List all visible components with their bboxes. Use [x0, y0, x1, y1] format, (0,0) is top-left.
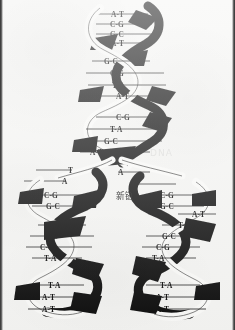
daughter-duplex-left — [14, 172, 104, 315]
base-pair-label: T-A — [44, 254, 57, 263]
base-pair-label: G-C — [110, 30, 124, 39]
base-pair-label: G-C — [160, 202, 174, 211]
base-pair-label: T-A — [52, 221, 65, 230]
base-pair-label: C-G — [110, 69, 124, 78]
base-pair-label: T-A — [112, 81, 125, 90]
base-pair-label: A-T — [156, 305, 169, 314]
base-pair-label: A-T — [111, 10, 124, 19]
scan-watermark: DNA — [150, 148, 173, 158]
base-pair-label: G-C — [104, 137, 118, 146]
daughter-duplex-right — [130, 176, 220, 317]
dna-helix-drawing: A-T C-G G-C A-T G-C C-G T-A A-T C-G T-A … — [0, 0, 235, 330]
base-pair-label: C-G — [156, 243, 170, 252]
unpaired-base-label: T — [134, 180, 139, 189]
base-pair-label: A-T — [156, 293, 169, 302]
left-twist-node-2 — [72, 190, 98, 208]
base-pair-label: G-C — [46, 202, 60, 211]
base-pair-label: C-G — [40, 243, 54, 252]
illustration-canvas: A-T C-G G-C A-T G-C C-G T-A A-T C-G T-A … — [0, 0, 235, 330]
base-pair-label: G-C — [44, 232, 58, 241]
base-pair-label: T-A — [178, 221, 191, 230]
new-strand-annotation: 新链 — [116, 190, 134, 201]
dna-replication-figure: A-T C-G G-C A-T G-C C-G T-A A-T C-G T-A … — [0, 0, 235, 330]
right-twist-node-1 — [192, 190, 216, 206]
base-pair-label: A-T — [116, 92, 129, 101]
base-pair-label: A-T — [42, 293, 55, 302]
right-twist-node-2 — [136, 190, 162, 208]
unpaired-base-label: T — [68, 166, 73, 175]
base-pair-label: A-T — [90, 148, 103, 157]
base-pair-label: T-A — [152, 254, 165, 263]
base-pair-label: C-G — [44, 191, 58, 200]
base-pair-label: T-A — [160, 281, 173, 290]
base-pair-label: G-C — [162, 232, 176, 241]
left-twist-node-1 — [18, 188, 44, 204]
base-pair-label: A-T — [42, 305, 55, 314]
base-pair-label: T-A — [110, 125, 123, 134]
base-pair-label: A-T — [192, 210, 205, 219]
unpaired-base-label: A — [118, 168, 124, 177]
base-pair-label: C-G — [110, 20, 124, 29]
unpaired-base-label: A — [62, 177, 68, 186]
base-pair-label: T-A — [48, 281, 61, 290]
base-pair-label: A-T — [111, 39, 124, 48]
base-pair-label: C-G — [116, 113, 130, 122]
base-pair-label: C-G — [160, 191, 174, 200]
parent-twist-node-5 — [78, 86, 104, 102]
base-pair-label: G-C — [104, 57, 118, 66]
